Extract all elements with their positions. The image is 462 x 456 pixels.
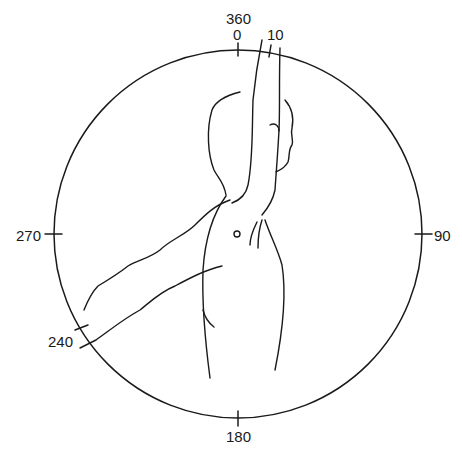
raised-arm-right-edge [262, 48, 280, 215]
chest-fold [250, 222, 257, 245]
back-line [203, 196, 226, 378]
raised-arm-left-edge [232, 40, 262, 203]
tick-240 [75, 325, 88, 330]
label-270: 270 [16, 228, 41, 243]
tick-10 [269, 45, 271, 57]
label-240: 240 [48, 334, 73, 349]
label-0: 0 [233, 27, 241, 42]
goniometer-diagram [0, 0, 462, 456]
ear [270, 124, 279, 131]
label-90: 90 [434, 228, 451, 243]
head-back [208, 92, 240, 195]
dial-circle [54, 50, 422, 418]
label-180: 180 [226, 429, 251, 444]
tick-marks [45, 43, 432, 426]
label-10: 10 [267, 27, 284, 42]
label-360: 360 [226, 11, 251, 26]
chest-fold-2 [258, 220, 262, 248]
outstretched-arm-lower-edge [80, 266, 222, 348]
outstretched-arm-upper-edge [84, 200, 230, 310]
front-line [265, 220, 284, 370]
figure-drawing [80, 40, 293, 378]
center-marker [234, 231, 240, 237]
